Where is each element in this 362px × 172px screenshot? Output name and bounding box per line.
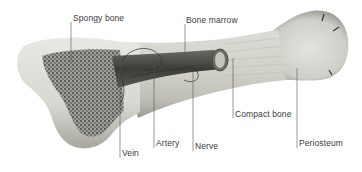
bone-diagram: Spongy bone Bone marrow Vein Artery Nerv… xyxy=(0,0,362,172)
bone-head-left xyxy=(17,37,140,148)
label-nerve: Nerve xyxy=(195,141,218,151)
label-compact-bone: Compact bone xyxy=(235,109,291,119)
label-spongy-bone: Spongy bone xyxy=(73,13,124,23)
label-bone-marrow: Bone marrow xyxy=(186,15,238,25)
label-artery: Artery xyxy=(156,138,179,148)
label-periosteum: Periosteum xyxy=(299,138,343,148)
label-vein: Vein xyxy=(122,148,139,158)
